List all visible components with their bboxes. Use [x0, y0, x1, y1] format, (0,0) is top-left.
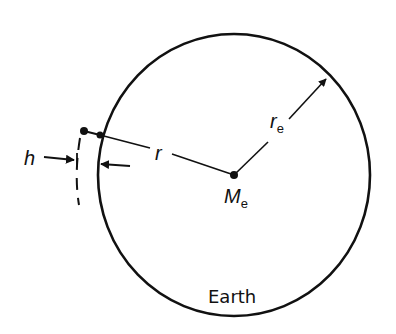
- orbit-dashed-arc: [77, 138, 80, 205]
- h-arrow-right: [101, 164, 130, 166]
- radius-r-line-outer: [100, 135, 150, 148]
- label-r: r: [155, 142, 163, 164]
- label-re: re: [270, 110, 284, 136]
- radius-r-line-inner: [172, 154, 234, 175]
- radius-re-arrow: [289, 79, 326, 119]
- h-arrow-left: [44, 157, 74, 160]
- label-h: h: [24, 147, 35, 169]
- label-earth: Earth: [208, 286, 256, 307]
- label-me: Me: [224, 185, 248, 211]
- radius-re-line-lower: [234, 142, 268, 175]
- earth-diagram: h r re Me Earth: [0, 0, 396, 334]
